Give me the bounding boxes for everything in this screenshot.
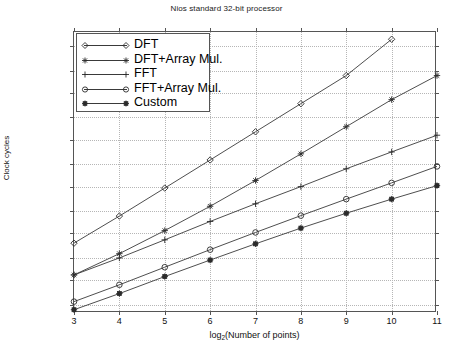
- data-point-star-filled: [162, 273, 168, 279]
- data-point-circle: [82, 87, 87, 92]
- data-point-star: [162, 227, 168, 233]
- x-tick: [437, 311, 438, 315]
- data-point-circle: [123, 87, 128, 92]
- data-point-plus: [298, 183, 304, 189]
- data-point-star-filled: [343, 210, 349, 216]
- data-point-plus: [252, 201, 258, 207]
- chart-title: Nios standard 32-bit processor: [0, 4, 453, 13]
- data-point-star: [82, 57, 88, 63]
- chart-root: Nios standard 32-bit processor Clock cyc…: [0, 0, 453, 357]
- data-point-plus: [123, 72, 129, 78]
- x-tick-label: 4: [117, 316, 122, 326]
- data-point-plus: [162, 237, 168, 243]
- data-point-plus: [343, 166, 349, 172]
- x-axis-title-rest: (Number of points): [225, 330, 300, 340]
- series-line-fft-array-mul: [74, 166, 437, 301]
- x-axis-title: log2(Number of points): [73, 330, 436, 341]
- data-point-diamond: [71, 240, 77, 246]
- x-tick-label: 3: [71, 316, 76, 326]
- data-point-star-filled: [252, 241, 258, 247]
- data-point-star: [434, 72, 440, 78]
- legend-label: Custom: [134, 95, 177, 110]
- legend-marker-plus-icon: [77, 67, 134, 82]
- x-tick-label: 5: [162, 316, 167, 326]
- data-point-star: [252, 177, 258, 183]
- legend-label: FFT+Array Mul.: [134, 81, 221, 96]
- legend-marker-star-filled-icon: [77, 96, 134, 111]
- legend-marker-diamond-icon: [77, 38, 134, 53]
- x-tick-label: 7: [253, 316, 258, 326]
- x-tick-label: 9: [344, 316, 349, 326]
- x-tick-label: 6: [208, 316, 213, 326]
- data-point-plus: [434, 132, 440, 138]
- legend-label: FFT: [134, 66, 157, 81]
- legend-marker-circle-icon: [77, 82, 134, 97]
- data-point-diamond: [82, 43, 88, 49]
- y-axis-title: Clock cycles: [2, 136, 11, 180]
- data-point-plus: [207, 218, 213, 224]
- legend: DFTDFT+Array Mul.FFTFFT+Array Mul.Custom: [76, 33, 210, 112]
- data-point-diamond: [123, 43, 129, 49]
- data-point-plus: [388, 149, 394, 155]
- data-point-star: [207, 203, 213, 209]
- data-point-star-filled: [434, 182, 440, 188]
- legend-item-custom[interactable]: Custom: [77, 96, 209, 111]
- data-point-star: [298, 151, 304, 157]
- x-axis-title-base: log: [209, 330, 221, 340]
- data-point-star-filled: [123, 101, 129, 107]
- data-point-star-filled: [116, 290, 122, 296]
- data-point-star-filled: [82, 101, 88, 107]
- data-point-star: [343, 124, 349, 130]
- data-point-star-filled: [298, 225, 304, 231]
- data-point-star-filled: [207, 257, 213, 263]
- data-point-star: [388, 96, 394, 102]
- data-point-plus: [82, 72, 88, 78]
- data-point-star-filled: [388, 196, 394, 202]
- x-tick-label: 10: [387, 316, 397, 326]
- legend-label: DFT: [134, 37, 158, 52]
- x-tick-label: 11: [432, 316, 441, 326]
- legend-label: DFT+Array Mul.: [134, 52, 223, 67]
- x-tick-top: [437, 28, 438, 32]
- data-point-star-filled: [71, 307, 77, 313]
- data-point-star: [123, 57, 129, 63]
- legend-marker-star-icon: [77, 53, 134, 68]
- x-tick-label: 8: [298, 316, 303, 326]
